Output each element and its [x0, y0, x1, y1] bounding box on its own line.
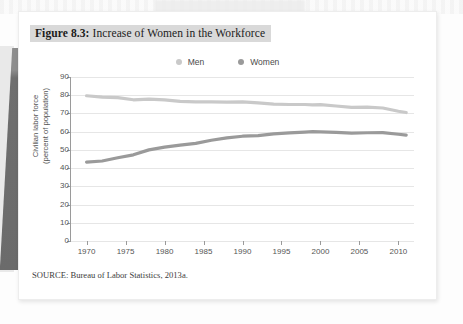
y-tick-label: 30	[43, 181, 69, 190]
x-tick-label: 1970	[70, 247, 104, 256]
series-line-men	[87, 96, 407, 113]
y-tick-label: 60	[43, 127, 69, 136]
x-tick-label: 1995	[264, 247, 298, 256]
y-tick-label: 10	[43, 218, 69, 227]
series-line-women	[87, 132, 407, 162]
x-tick-label: 2000	[303, 247, 337, 256]
y-tick-label: 50	[43, 145, 69, 154]
chart-series-layer	[71, 77, 414, 242]
x-tick-label: 2005	[342, 247, 376, 256]
x-tick-label: 1980	[148, 247, 182, 256]
chart-plot-wrapper: Civilian labor force (percent of populat…	[19, 12, 436, 299]
y-tick-label: 70	[43, 108, 69, 117]
source-note: SOURCE: Bureau of Labor Statistics, 2013…	[32, 270, 188, 280]
figure-card: Figure 8.3: Increase of Women in the Wor…	[18, 11, 437, 300]
y-tick-label: 40	[43, 163, 69, 172]
y-tick-label: 90	[43, 72, 69, 81]
y-tick-label: 20	[43, 200, 69, 209]
x-tick-label: 1990	[226, 247, 260, 256]
y-tick-label: 0	[43, 236, 69, 245]
y-tick-label: 80	[43, 90, 69, 99]
x-tick-label: 1975	[109, 247, 143, 256]
x-tick-label: 2010	[381, 247, 415, 256]
y-axis-label-line1: Civilian labor force	[31, 56, 41, 196]
chart-plot-area: 9080706050403020100 19701975198019851990…	[71, 77, 414, 241]
x-tick-label: 1985	[187, 247, 221, 256]
